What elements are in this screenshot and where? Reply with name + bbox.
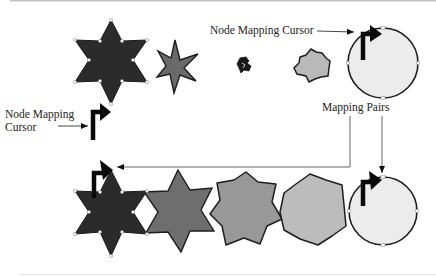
left-cursor-label-line2: Cursor xyxy=(5,121,36,134)
bottom-source-star[interactable] xyxy=(73,170,148,258)
top-cursor-label: Node Mapping Cursor xyxy=(210,24,314,37)
bottom-rounded-polygon xyxy=(280,174,346,245)
diagram-canvas: Node Mapping Cursor Node Mapping Cursor … xyxy=(0,0,436,277)
left-node-mapping-cursor-icon[interactable] xyxy=(93,103,111,140)
mapping-pairs-left-connector xyxy=(117,116,350,167)
diagram-graphics xyxy=(0,0,436,277)
top-irregular-blob xyxy=(294,49,330,82)
left-cursor-label-line1: Node Mapping xyxy=(5,108,74,121)
top-tiny-shape xyxy=(237,57,251,73)
bottom-star-2 xyxy=(144,170,214,252)
mapping-pairs-label: Mapping Pairs xyxy=(322,101,389,114)
top-source-star[interactable] xyxy=(73,18,148,105)
bottom-rounded-star xyxy=(210,172,282,245)
top-cursor-pointer-arrow xyxy=(317,31,354,32)
top-intermediate-star xyxy=(157,40,198,93)
top-target-circle[interactable] xyxy=(347,27,420,100)
bottom-target-circle[interactable] xyxy=(348,176,419,247)
